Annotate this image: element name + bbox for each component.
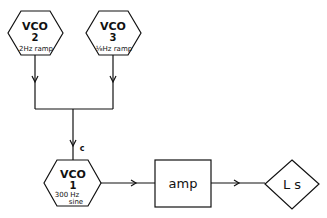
vco1-number: 1 xyxy=(70,180,77,191)
synth-patch-diagram: VCO 2 2Hz ramp VCO 3 ⅛Hz ramp c VCO 1 30… xyxy=(0,0,327,218)
vco1-detail-bottom: sine xyxy=(69,198,83,206)
junction-label: c xyxy=(80,144,85,153)
vco3-detail: ⅛Hz ramp xyxy=(96,45,133,53)
vco3-number: 3 xyxy=(110,32,117,43)
vco2-number: 2 xyxy=(32,32,39,43)
vco2-detail: 2Hz ramp xyxy=(19,45,54,53)
ls-label: L s xyxy=(283,177,301,192)
amp-label: amp xyxy=(169,176,198,191)
